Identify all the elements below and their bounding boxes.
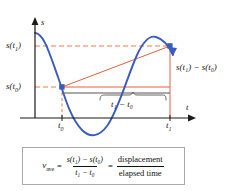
- formula-box: vave = s(t₁) − s(t₀) t₁ − t₀ = displacem…: [22, 147, 185, 185]
- value-label-s-t0: s(t0): [6, 82, 21, 94]
- tick-label-t1: t1: [166, 121, 171, 133]
- rise-annotation-label: s(t₁) − s(t₀): [176, 63, 217, 72]
- average-velocity-formula: vave = s(t₁) − s(t₀) t₁ − t₀ = displacem…: [42, 154, 164, 177]
- value-label-s-t1: s(t1): [6, 41, 21, 53]
- formula-fraction-2: displacement elapsed time: [116, 154, 165, 177]
- x-axis-arrowhead: [188, 115, 196, 122]
- run-annotation-label: t₁ − t₀: [111, 100, 133, 109]
- t0-sub: 0: [61, 126, 64, 132]
- s-t1-close: ): [18, 40, 21, 50]
- formula-equals-1: =: [57, 161, 62, 171]
- formula-equals-2: =: [108, 161, 113, 171]
- t1-sub: 1: [169, 126, 172, 132]
- position-curve: [35, 33, 173, 135]
- formula-fraction-2-denominator: elapsed time: [117, 166, 164, 178]
- formula-fraction-1-denominator: t₁ − t₀: [73, 166, 96, 177]
- formula-lhs-subscript: ave: [46, 166, 54, 172]
- tick-label-t0: t0: [58, 121, 63, 133]
- y-axis-arrowhead: [32, 17, 39, 25]
- formula-fraction-2-numerator: displacement: [116, 154, 165, 165]
- point-marker-p1: [167, 43, 172, 48]
- s-t0-close: ): [18, 81, 21, 91]
- secant-line: [62, 46, 170, 87]
- formula-fraction-1-numerator: s(t₁) − s(t₀): [65, 155, 105, 165]
- y-axis-label: s: [41, 18, 44, 27]
- point-marker-p0: [59, 84, 64, 89]
- formula-fraction-1: s(t₁) − s(t₀) t₁ − t₀: [65, 155, 105, 177]
- figure-average-velocity: s t s(t1) s(t0) t0 t1 t₁ − t₀ s(t₁) − s(…: [0, 0, 227, 191]
- formula-lhs: vave: [42, 160, 54, 172]
- x-axis-label: t: [186, 103, 188, 112]
